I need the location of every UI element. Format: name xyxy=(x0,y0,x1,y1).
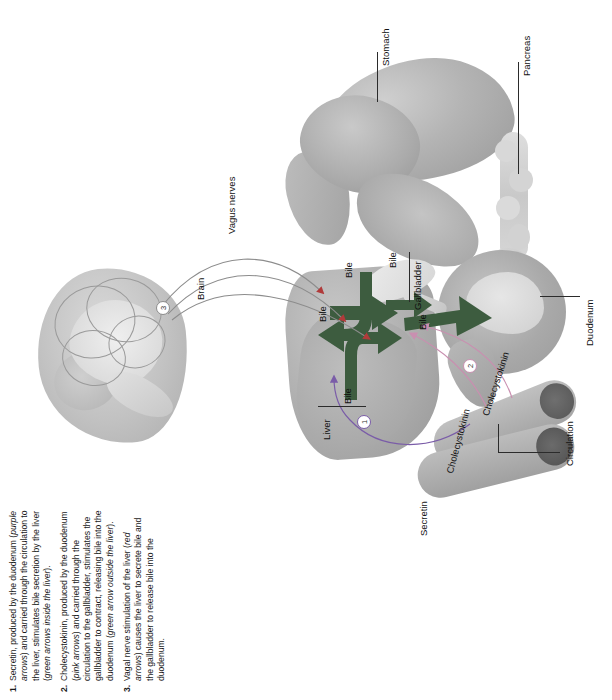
leader-liver xyxy=(318,406,366,407)
label-circulation: Circulation xyxy=(565,421,575,466)
label-pancreas: Pancreas xyxy=(522,36,532,76)
label-bile-2: Bile xyxy=(318,306,328,322)
caption-text: Secretin, produced by the duodenum (purp… xyxy=(8,506,53,681)
label-secretin: Secretin xyxy=(419,501,429,536)
marker-3-label: 3 xyxy=(159,306,168,310)
vagus-nerve-1 xyxy=(162,259,322,306)
figure-caption: 1.Secretin, produced by the duodenum (pu… xyxy=(8,492,173,692)
bile-arrow-group xyxy=(318,272,492,400)
label-vagus-nerves: Vagus nerves xyxy=(227,177,237,234)
caption-item-1: 1.Secretin, produced by the duodenum (pu… xyxy=(8,492,53,692)
label-bile-3: Bile xyxy=(343,388,353,404)
label-brain: Brain xyxy=(196,278,206,300)
caption-item-3: 3.Vagal nerve stimulation of the liver (… xyxy=(122,492,167,692)
figure-canvas: 1 2 3 Brain Vagus nerves Stomach Pancrea… xyxy=(0,0,612,700)
leader-duodenum xyxy=(540,296,580,297)
label-duodenum: Duodenum xyxy=(585,300,595,346)
leader-pancreas xyxy=(518,62,519,174)
caption-text: Cholecystokinin, produced by the duodenu… xyxy=(59,506,116,681)
leader-circulation-2 xyxy=(498,424,499,452)
label-bile-1: Bile xyxy=(344,262,354,278)
label-liver: Liver xyxy=(322,419,332,440)
label-gallbladder: Gallbladder xyxy=(413,261,423,310)
leader-circulation xyxy=(498,452,560,453)
leader-stomach xyxy=(377,52,378,102)
caption-number: 3. xyxy=(122,681,133,692)
label-stomach: Stomach xyxy=(381,29,391,67)
caption-number: 1. xyxy=(8,681,19,692)
label-bile-4: Bile xyxy=(418,314,428,330)
caption-text: Vagal nerve stimulation of the liver (re… xyxy=(122,506,167,681)
caption-item-2: 2.Cholecystokinin, produced by the duode… xyxy=(59,492,116,692)
label-bile-5: Bile xyxy=(388,252,398,268)
marker-2-label: 2 xyxy=(466,364,475,368)
leader-gallbladder xyxy=(409,252,410,302)
marker-1-label: 1 xyxy=(360,420,369,424)
caption-number: 2. xyxy=(59,681,70,692)
